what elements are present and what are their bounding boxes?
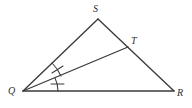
angle-mark-SQT (52, 63, 63, 76)
segment-QT (23, 47, 128, 91)
angle-mark-TQR (51, 78, 64, 91)
geometry-figure: S T Q R (0, 0, 192, 108)
figure-canvas (0, 0, 192, 108)
vertex-label-Q: Q (8, 86, 15, 96)
angle-hash-upper (52, 66, 63, 73)
vertex-label-R: R (177, 88, 183, 98)
angle-arc-upper (52, 63, 61, 76)
segment-QS (23, 19, 98, 91)
vertex-label-T: T (131, 36, 137, 46)
vertex-label-S: S (93, 4, 98, 14)
